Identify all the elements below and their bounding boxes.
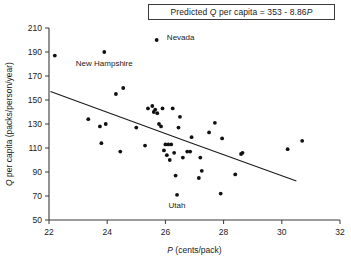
y-tick-label: 150 (28, 95, 42, 105)
y-tick-label: 170 (28, 71, 42, 81)
data-point (168, 158, 172, 162)
point-label: Nevada (167, 33, 195, 42)
data-point (153, 108, 157, 112)
point-label: New Hampshire (76, 59, 133, 68)
data-point (98, 125, 102, 129)
data-point (99, 141, 103, 145)
x-axis-label: P (cents/pack) (167, 245, 221, 255)
regression-line (50, 92, 296, 181)
data-point (86, 117, 90, 121)
y-tick-label: 90 (33, 167, 43, 177)
data-point (143, 144, 147, 148)
data-point (134, 126, 138, 130)
data-point (198, 156, 202, 160)
data-point (175, 193, 179, 197)
data-point (219, 192, 223, 196)
data-point (102, 50, 106, 54)
y-tick-label: 50 (33, 215, 43, 225)
data-point (165, 153, 169, 157)
data-point (200, 169, 204, 173)
data-point (114, 92, 118, 96)
point-labels: NevadaNew HampshireUtah (76, 33, 195, 210)
data-point (150, 104, 154, 108)
data-point (197, 176, 201, 180)
data-point (233, 173, 237, 177)
data-point (213, 121, 217, 125)
data-point (286, 147, 290, 151)
y-axis-label: Q per capita (packs/person/year) (4, 62, 14, 186)
data-point (155, 111, 159, 115)
x-tick-label: 30 (277, 227, 287, 237)
data-point (188, 150, 192, 154)
data-point (159, 125, 163, 129)
data-point (169, 143, 173, 147)
data-point (207, 131, 211, 135)
data-point (53, 54, 57, 58)
y-axis-ticks: 507090110130150170190210 (28, 23, 49, 225)
x-tick-label: 32 (335, 227, 345, 237)
data-point (174, 174, 178, 178)
data-point (121, 86, 125, 90)
data-point (146, 107, 150, 111)
data-point (104, 122, 108, 126)
x-tick-label: 28 (219, 227, 229, 237)
data-point (171, 107, 175, 111)
data-point (300, 139, 304, 143)
data-point (177, 126, 181, 130)
data-point (162, 149, 166, 153)
x-tick-label: 24 (102, 227, 112, 237)
x-tick-label: 26 (161, 227, 171, 237)
y-tick-label: 70 (33, 191, 43, 201)
data-point (181, 156, 185, 160)
x-axis-ticks: 222426283032 (44, 220, 345, 237)
scatter-plot: 507090110130150170190210 222426283032 Ne… (0, 0, 351, 263)
data-point (155, 38, 159, 42)
data-point (118, 150, 122, 154)
y-tick-label: 130 (28, 119, 42, 129)
y-tick-label: 210 (28, 23, 42, 33)
data-point (178, 115, 182, 119)
data-point (220, 137, 224, 141)
data-point (172, 151, 176, 155)
point-label: Utah (169, 201, 186, 210)
y-tick-label: 190 (28, 47, 42, 57)
data-point (161, 107, 165, 111)
x-tick-label: 22 (44, 227, 54, 237)
y-tick-label: 110 (28, 143, 42, 153)
data-point (190, 135, 194, 139)
data-point (241, 151, 245, 155)
